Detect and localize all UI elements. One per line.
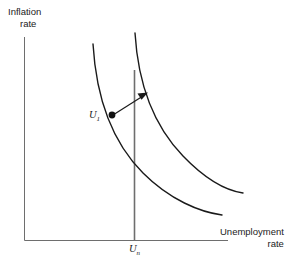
natural-rate-label: Un <box>129 243 140 257</box>
phillips-curve-diagram: Inflation rate Unemployment rate U1 Un <box>0 0 298 272</box>
short-run-curve-shifted <box>135 33 243 193</box>
x-axis-label-line2: rate <box>220 238 284 250</box>
y-axis-label-line2: rate <box>8 18 41 30</box>
point-u1-marker <box>109 112 116 119</box>
natural-rate-label-base: U <box>129 243 137 254</box>
shift-arrow <box>113 93 148 116</box>
point-u1-label: U1 <box>89 109 100 123</box>
x-axis-label: Unemployment rate <box>220 226 284 250</box>
y-axis-label: Inflation rate <box>8 6 41 30</box>
y-axis-label-line1: Inflation <box>8 6 41 17</box>
natural-rate-label-sub: n <box>137 249 141 257</box>
point-u1-label-sub: 1 <box>97 115 101 123</box>
point-u1-label-base: U <box>89 109 97 120</box>
short-run-curve-initial <box>93 44 222 215</box>
x-axis-label-line1: Unemployment <box>220 226 284 238</box>
